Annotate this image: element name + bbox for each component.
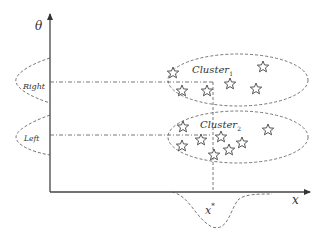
cluster-1-star-icon — [224, 78, 235, 89]
cluster-1-star-icon — [176, 85, 187, 96]
cluster-2-star-icon — [215, 131, 226, 142]
stars-layer — [167, 61, 273, 160]
cluster-2-star-icon — [262, 124, 273, 135]
cluster-2-star-icon — [208, 149, 219, 160]
cluster-1-subscript: 1 — [229, 70, 233, 77]
cluster-1-name: Cluster — [192, 64, 230, 75]
left-lobe-label: Left — [23, 134, 40, 143]
cluster-1-star-icon — [201, 85, 212, 96]
marker-label: x* — [205, 202, 215, 217]
cluster-2-star-icon — [236, 137, 247, 148]
right-lobe-label: Right — [22, 82, 46, 91]
cluster-2-star-icon — [176, 140, 187, 151]
cluster-2-subscript: 2 — [237, 125, 241, 132]
right-lobe — [16, 58, 50, 103]
cluster-2-star-icon — [223, 144, 234, 155]
cluster-1-star-icon — [250, 83, 261, 94]
distribution-dip-curve — [172, 192, 272, 228]
cluster-1-ellipse — [168, 54, 308, 106]
x-axis-label: x — [292, 193, 299, 207]
cluster-1-star-icon — [257, 61, 268, 72]
cluster-2-name: Cluster — [200, 119, 238, 130]
cluster-2-label: Cluster2 — [200, 119, 241, 132]
marker-label-superscript: * — [211, 202, 215, 210]
y-axis-label: θ — [35, 19, 43, 33]
diagram-canvas: θ x Right Left Cluster1 Cluster2 x* — [0, 0, 328, 239]
cluster-2-star-icon — [195, 134, 206, 145]
cluster-1-label: Cluster1 — [192, 64, 233, 77]
cluster-2-ellipse — [168, 111, 308, 163]
